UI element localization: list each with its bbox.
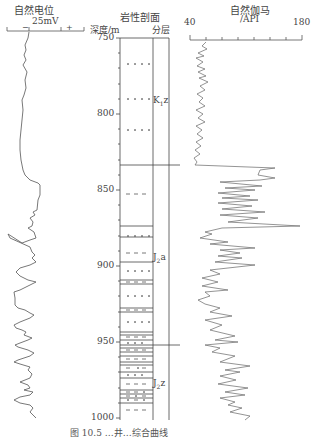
figure-caption: 图 10.5 …井…综合曲线	[70, 426, 168, 439]
lithology-column	[120, 38, 180, 420]
gr-curve	[194, 42, 300, 420]
sp-curve	[8, 32, 40, 418]
sp-scale-bar	[7, 27, 84, 31]
depth-axis	[116, 38, 120, 420]
gr-scale-bar	[190, 35, 302, 40]
